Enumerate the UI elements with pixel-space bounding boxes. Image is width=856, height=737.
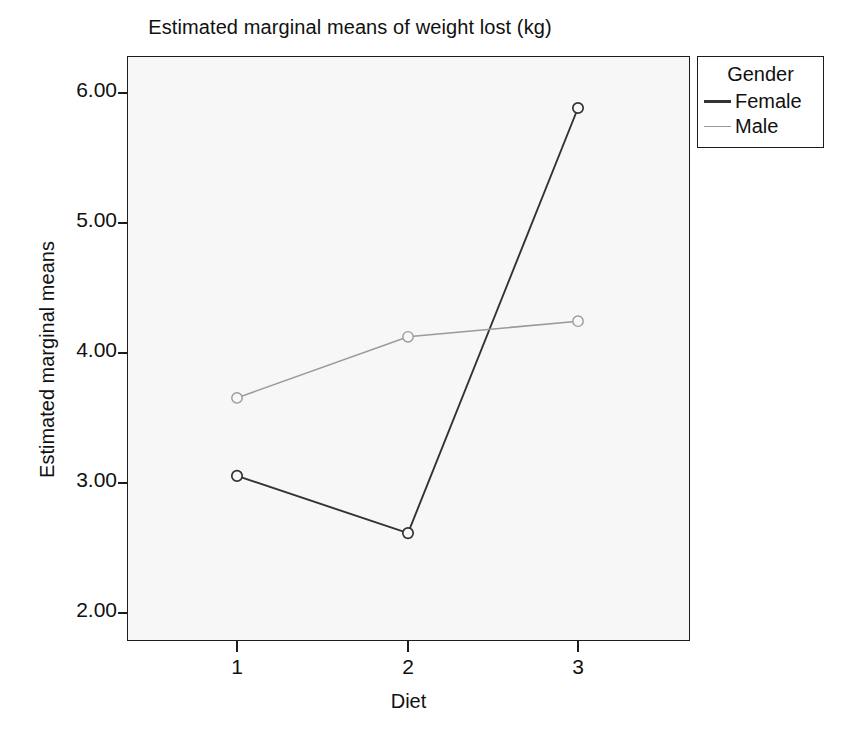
x-axis-tick-mark [236,641,238,652]
legend-entries: FemaleMale [698,89,823,139]
legend-item-female: Female [698,89,823,114]
y-axis-tick-mark [118,482,128,484]
data-point-marker [573,103,583,113]
x-axis-tick-label: 3 [548,655,608,679]
series-female [232,103,583,539]
x-axis-tick-mark [407,641,409,652]
legend-item-male: Male [698,114,823,139]
y-axis-tick-mark [118,352,128,354]
x-axis-tick-label: 2 [378,655,438,679]
legend-line-swatch [704,100,731,102]
data-point-marker [232,393,242,403]
data-point-marker [403,528,413,538]
chart-figure: Estimated marginal means of weight lost … [0,0,856,737]
x-axis-title: Diet [127,690,690,713]
legend-box: Gender FemaleMale [697,56,824,148]
y-axis-title: Estimated marginal means [36,100,59,620]
series-male [232,316,583,403]
legend-title: Gender [698,62,823,89]
plot-series-canvas [127,56,690,641]
data-point-marker [403,332,413,342]
y-axis-tick-mark [118,92,128,94]
legend-item-label: Female [735,90,802,113]
x-axis-tick-mark [577,641,579,652]
legend-line-swatch [704,126,731,128]
y-axis-tick-mark [118,222,128,224]
data-point-marker [232,471,242,481]
legend-item-label: Male [735,115,778,138]
y-axis-tick-mark [118,612,128,614]
series-line [237,108,578,533]
data-point-marker [573,316,583,326]
x-axis-tick-label: 1 [207,655,267,679]
